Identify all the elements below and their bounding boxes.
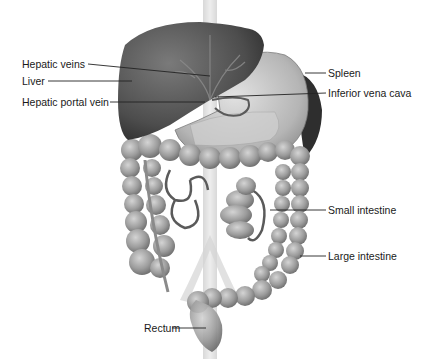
- label-hepatic-veins: Hepatic veins: [22, 58, 85, 70]
- label-inferior-vena-cava: Inferior vena cava: [328, 87, 411, 99]
- descending-colon: [254, 163, 309, 282]
- digestive-system-diagram: Hepatic veins Liver Hepatic portal vein …: [0, 0, 426, 359]
- label-liver: Liver: [22, 75, 45, 87]
- label-spleen: Spleen: [328, 67, 361, 79]
- small-intestine-coil: [220, 177, 256, 239]
- rectum-shape: [190, 300, 223, 352]
- anatomy-illustration: [0, 0, 426, 359]
- label-large-intestine: Large intestine: [328, 250, 397, 262]
- label-hepatic-portal-vein: Hepatic portal vein: [22, 96, 109, 108]
- label-rectum: Rectum: [144, 322, 180, 334]
- label-small-intestine: Small intestine: [328, 204, 396, 216]
